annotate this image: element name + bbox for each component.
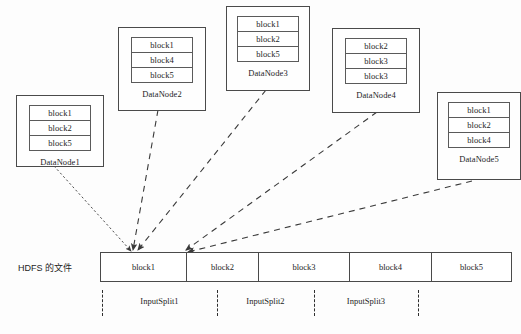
datanode-1-block-1: block2 (30, 121, 90, 136)
datanode-3-block-2: block5 (238, 47, 298, 62)
datanode-3-block-1: block2 (238, 32, 298, 47)
file-block-3[interactable]: block3 (259, 253, 350, 281)
file-block-1[interactable]: block1 (101, 253, 187, 281)
hdfs-file-bar: block1 block2 block3 block4 block5 (100, 252, 512, 282)
datanode-1-label: DataNode1 (40, 157, 80, 167)
edge-datanode5-to-block2 (188, 181, 472, 252)
datanode-2-label: DataNode2 (142, 89, 182, 99)
edge-datanode4-to-block2 (186, 112, 377, 250)
datanode-2-block-2: block5 (132, 68, 192, 83)
file-block-2[interactable]: block2 (187, 253, 259, 281)
file-block-4[interactable]: block4 (350, 253, 432, 281)
datanode-5-block-1: block2 (449, 118, 509, 133)
datanode-3[interactable]: block1 block2 block5 DataNode3 (226, 6, 310, 91)
datanode-1[interactable]: block1 block2 block5 DataNode1 (16, 95, 104, 167)
datanode-5-block-stack: block1 block2 block4 (448, 102, 510, 148)
datanode-4[interactable]: block2 block3 block3 DataNode4 (332, 28, 420, 113)
hdfs-file-label: HDFS 的文件 (18, 261, 72, 274)
edge-datanode1-to-block1 (54, 166, 131, 251)
datanode-4-block-1: block3 (346, 54, 406, 69)
datanode-1-block-2: block5 (30, 136, 90, 151)
hdfs-inputsplit-diagram: block1 block2 block5 DataNode1 block1 bl… (0, 0, 521, 334)
datanode-4-block-0: block2 (346, 39, 406, 54)
datanode-2-block-0: block1 (132, 38, 192, 53)
inputsplit-band: InputSplit1 InputSplit2 InputSplit3 (100, 282, 512, 322)
datanode-5-label: DataNode5 (459, 154, 499, 164)
datanode-4-block-2: block3 (346, 69, 406, 84)
datanode-2[interactable]: block1 block4 block5 DataNode2 (118, 27, 206, 111)
datanode-5-block-2: block4 (449, 133, 509, 148)
datanode-1-block-0: block1 (30, 106, 90, 121)
datanode-5[interactable]: block1 block2 block4 DataNode5 (437, 92, 521, 180)
datanode-3-label: DataNode3 (248, 68, 288, 78)
datanode-5-block-0: block1 (449, 103, 509, 118)
edge-datanode3-to-block1 (138, 90, 266, 250)
datanode-4-block-stack: block2 block3 block3 (345, 38, 407, 84)
inputsplit-label-3: InputSplit3 (314, 296, 418, 306)
datanode-2-block-stack: block1 block4 block5 (131, 37, 193, 83)
edge-datanode2-to-block1 (133, 110, 158, 250)
inputsplit-label-1: InputSplit1 (102, 296, 217, 306)
inputsplit-tick-3 (418, 290, 419, 316)
datanode-3-block-stack: block1 block2 block5 (237, 16, 299, 62)
datanode-2-block-1: block4 (132, 53, 192, 68)
datanode-4-label: DataNode4 (356, 90, 396, 100)
file-block-5[interactable]: block5 (432, 253, 511, 281)
datanode-1-block-stack: block1 block2 block5 (29, 105, 91, 151)
inputsplit-label-2: InputSplit2 (217, 296, 314, 306)
datanode-3-block-0: block1 (238, 17, 298, 32)
